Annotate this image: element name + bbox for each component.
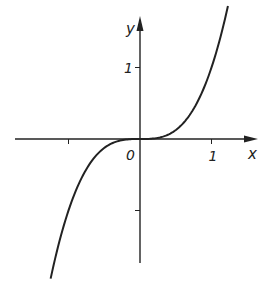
y-axis-label: y [125,20,136,38]
cubic-curve [51,6,228,279]
y-axis-arrow-icon [137,16,144,31]
y-tick-label: 1 [124,60,133,76]
origin-label: 0 [126,147,135,163]
x-axis-label: x [247,145,257,163]
ticks: 11 [69,60,218,211]
cubic-function-plot: 11 x y 0 [0,0,270,281]
x-tick-label: 1 [209,148,218,164]
x-axis-arrow-icon [244,136,258,143]
